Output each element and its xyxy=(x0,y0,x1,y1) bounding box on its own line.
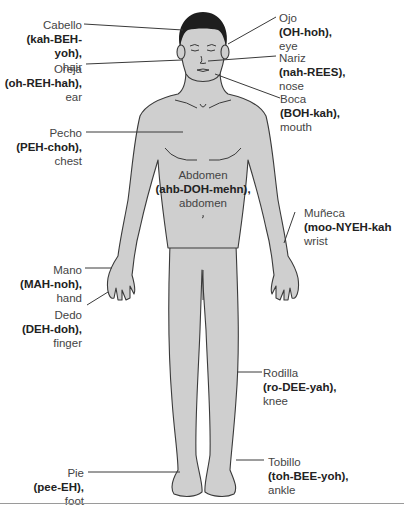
term-cabello: Cabello xyxy=(0,18,82,32)
label-muneca: Muñeca (moo-NYEH-kah wrist xyxy=(304,206,392,248)
label-rodilla: Rodilla (ro-DEE-yah), knee xyxy=(263,366,336,408)
pron-rodilla: (ro-DEE-yah), xyxy=(263,380,336,394)
pron-dedo: (DEH-doh), xyxy=(22,322,82,336)
label-dedo: Dedo (DEH-doh), finger xyxy=(22,308,82,350)
term-boca: Boca xyxy=(280,92,340,106)
english-nariz: nose xyxy=(279,79,345,93)
label-boca: Boca (BOH-kah), mouth xyxy=(280,92,340,134)
term-tobillo: Tobillo xyxy=(268,455,348,469)
pron-pecho: (PEH-choh), xyxy=(16,140,82,154)
pron-boca: (BOH-kah), xyxy=(280,106,340,120)
pron-oreja: (oh-REH-hah), xyxy=(5,76,82,90)
label-pie: Pie (pee-EH), foot xyxy=(34,466,84,508)
english-pecho: chest xyxy=(16,154,82,168)
pron-abdomen: (ahb-DOH-mehn), xyxy=(150,182,256,196)
english-pie: foot xyxy=(34,494,84,508)
english-mano: hand xyxy=(20,291,82,305)
term-oreja: Oreja xyxy=(5,62,82,76)
english-muneca: wrist xyxy=(304,234,392,248)
pron-pie: (pee-EH), xyxy=(34,480,84,494)
term-rodilla: Rodilla xyxy=(263,366,336,380)
pron-mano: (MAH-noh), xyxy=(20,277,82,291)
term-pecho: Pecho xyxy=(16,126,82,140)
label-nariz: Nariz (nah-REES), nose xyxy=(279,51,345,93)
label-pecho: Pecho (PEH-choh), chest xyxy=(16,126,82,168)
term-nariz: Nariz xyxy=(279,51,345,65)
term-dedo: Dedo xyxy=(22,308,82,322)
pron-cabello: (kah-BEH-yoh), xyxy=(0,32,82,60)
label-abdomen: Abdomen (ahb-DOH-mehn), abdomen xyxy=(150,168,256,210)
body-silhouette xyxy=(107,16,298,496)
english-dedo: finger xyxy=(22,336,82,350)
term-abdomen: Abdomen xyxy=(150,168,256,182)
english-tobillo: ankle xyxy=(268,483,348,497)
english-oreja: ear xyxy=(5,90,82,104)
term-ojo: Ojo xyxy=(279,11,332,25)
term-muneca: Muñeca xyxy=(304,206,392,220)
pron-nariz: (nah-REES), xyxy=(279,65,345,79)
english-boca: mouth xyxy=(280,120,340,134)
english-rodilla: knee xyxy=(263,394,336,408)
term-mano: Mano xyxy=(20,263,82,277)
bottom-divider xyxy=(0,503,404,504)
pron-muneca: (moo-NYEH-kah xyxy=(304,220,392,234)
label-ojo: Ojo (OH-hoh), eye xyxy=(279,11,332,53)
pron-ojo: (OH-hoh), xyxy=(279,25,332,39)
label-oreja: Oreja (oh-REH-hah), ear xyxy=(5,62,82,104)
label-mano: Mano (MAH-noh), hand xyxy=(20,263,82,305)
pron-tobillo: (toh-BEE-yoh), xyxy=(268,469,348,483)
term-pie: Pie xyxy=(34,466,84,480)
label-tobillo: Tobillo (toh-BEE-yoh), ankle xyxy=(268,455,348,497)
english-abdomen: abdomen xyxy=(150,196,256,210)
